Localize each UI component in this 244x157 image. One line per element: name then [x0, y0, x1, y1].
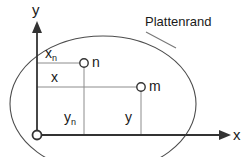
y-label: y	[125, 110, 132, 124]
x-axis-arrowhead	[219, 130, 231, 140]
y-axis-arrowhead	[32, 21, 42, 33]
origin-circle-marker	[33, 131, 42, 140]
plattenrand-label: Plattenrand	[145, 15, 212, 28]
xn-label: xn	[45, 46, 57, 60]
coordinate-diagram: y x Plattenrand xn x yn y n m	[0, 0, 244, 157]
point-m-marker	[137, 83, 145, 91]
yn-label-subscript: n	[71, 117, 76, 127]
yn-label-main: y	[64, 109, 71, 125]
point-m-label: m	[149, 79, 161, 93]
point-n-marker	[80, 59, 88, 67]
xn-label-subscript: n	[52, 53, 57, 63]
y-axis-label: y	[32, 2, 40, 17]
point-n-label: n	[92, 55, 100, 69]
yn-label: yn	[64, 110, 76, 124]
xn-label-main: x	[45, 45, 52, 61]
x-axis-label: x	[233, 127, 241, 142]
x-label: x	[51, 70, 58, 84]
